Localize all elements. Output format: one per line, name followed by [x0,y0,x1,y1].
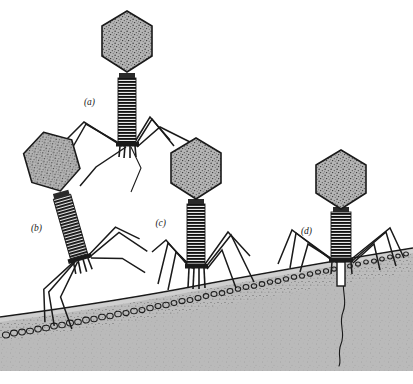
phage-c-base-plate [185,264,208,269]
phage-a-base-plate [116,142,139,147]
figure-canvas: (a) (b) [0,0,413,384]
phage-d-tail-core [337,262,345,286]
phage-a-tail-sheath [118,78,136,142]
phage-infection-figure: (a) (b) [0,0,413,384]
phage-a-collar [119,73,135,78]
phage-d-contracted-sheath [331,212,351,258]
phage-c-tail-sheath [187,204,205,264]
phage-c-label: (c) [155,218,166,229]
phage-d-label: (d) [301,226,312,237]
phage-a-label: (a) [84,97,95,108]
phage-b-label: (b) [31,223,42,234]
